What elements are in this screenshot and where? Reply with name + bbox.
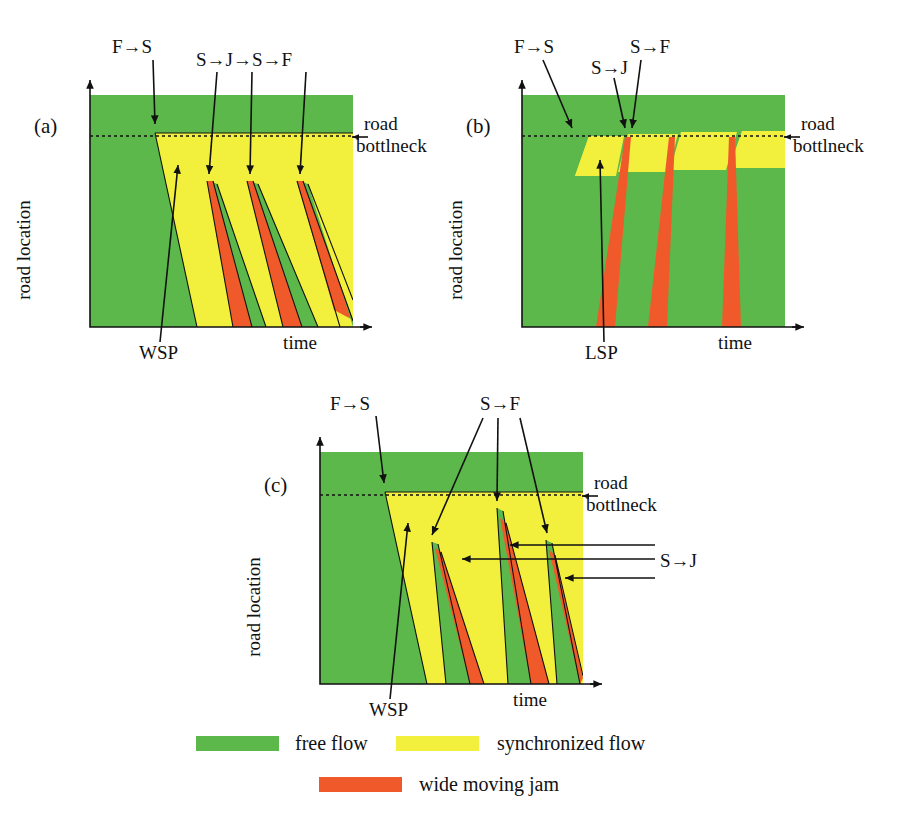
panel-b-annot-s-to-j: S→J — [591, 57, 628, 78]
panel-a-bottleneck-label: road bottlneck — [352, 113, 427, 156]
panel-c-bn-line1: road — [594, 472, 628, 493]
legend-swatch-free-flow — [196, 736, 279, 751]
legend-swatch-wide-moving-jam — [319, 777, 402, 792]
synchronized-flow-patch-3 — [670, 132, 737, 170]
panel-b-bottleneck-label: road bottlneck — [784, 113, 864, 156]
panel-b-bn-line1: road — [801, 113, 835, 134]
legend-swatch-synchronized-flow — [396, 736, 479, 751]
panel-c-arrow-s-to-f-2 — [497, 418, 498, 501]
panel-c-annot-s-to-j: S→J — [660, 550, 697, 571]
panel-a-tag: (a) — [34, 114, 57, 138]
panel-b-ylabel: road location — [445, 200, 466, 300]
panel-c-annot-wsp: WSP — [369, 699, 408, 720]
panel-c-tag: (c) — [264, 473, 287, 497]
legend: free flow synchronized flow wide moving … — [196, 732, 646, 796]
panel-b-tag: (b) — [466, 114, 491, 138]
legend-label-wide-moving-jam: wide moving jam — [419, 773, 559, 796]
legend-label-synchronized-flow: synchronized flow — [497, 732, 646, 755]
panel-b: (b) road location time F→S S→J S→F LSP r… — [445, 36, 864, 363]
legend-label-free-flow: free flow — [295, 732, 368, 754]
panel-b-bn-line2: bottlneck — [793, 135, 864, 156]
panel-b-annot-s-to-f: S→F — [630, 36, 670, 57]
panel-a-annot-wsp: WSP — [139, 342, 178, 363]
panel-a-annot-f-to-s: F→S — [112, 36, 152, 57]
panel-c-bottleneck-label: road bottlneck — [582, 472, 657, 515]
panel-a: (a) road location time F→S S→J→S→F WSP r… — [13, 36, 427, 363]
panel-c-bn-line2: bottlneck — [586, 494, 657, 515]
panel-c-annot-s-to-f: S→F — [480, 393, 520, 414]
panel-b-xlabel: time — [718, 332, 752, 353]
panel-c-xlabel: time — [513, 689, 547, 710]
panel-a-bn-line2: bottlneck — [356, 135, 427, 156]
panel-c-plot-area — [320, 452, 583, 684]
panel-c: (c) road location time F→S S→F S→J WSP r… — [243, 393, 697, 720]
panel-a-bn-line1: road — [364, 113, 398, 134]
panel-a-annot-s-j-s-f: S→J→S→F — [196, 49, 292, 70]
panel-c-ylabel: road location — [243, 557, 264, 657]
panel-a-xlabel: time — [283, 332, 317, 353]
panel-a-plot-area — [90, 95, 353, 327]
panel-b-annot-f-to-s: F→S — [514, 36, 554, 57]
panel-c-annot-f-to-s: F→S — [330, 393, 370, 414]
panel-b-plot-area — [522, 95, 785, 327]
traffic-phase-figure: (a) road location time F→S S→J→S→F WSP r… — [0, 0, 919, 823]
panel-a-ylabel: road location — [13, 200, 34, 300]
panel-b-annot-lsp: LSP — [585, 342, 618, 363]
